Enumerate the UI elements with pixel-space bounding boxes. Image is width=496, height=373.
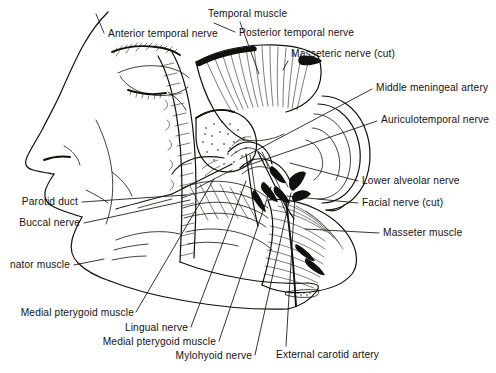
label-lingual-nerve: Lingual nerve — [125, 322, 188, 333]
label-temporal-muscle: Temporal muscle — [208, 8, 287, 19]
label-lower-alveolar-nerve: Lower alveolar nerve — [362, 175, 460, 186]
label-anterior-temporal-nerve: Anterior temporal nerve — [108, 28, 218, 39]
label-masseteric-nerve-cut: Masseteric nerve (cut) — [291, 48, 395, 59]
label-auriculotemporal-nerve: Auriculotemporal nerve — [381, 114, 489, 125]
anatomy-illustration: Anterior temporal nerve Temporal muscle … — [0, 0, 496, 373]
label-external-carotid-artery: External carotid artery — [276, 349, 380, 360]
anatomical-figure: Anterior temporal nerve Temporal muscle … — [0, 0, 496, 373]
label-parotid-duct: Parotid duct — [22, 196, 78, 207]
label-masseter-muscle: Masseter muscle — [383, 227, 462, 238]
label-facial-nerve-cut: Facial nerve (cut) — [362, 197, 443, 208]
label-buccinator-muscle: nator muscle — [10, 259, 70, 270]
label-buccal-nerve: Buccal nerve — [19, 217, 80, 228]
label-mylohyoid-nerve: Mylohyoid nerve — [176, 350, 253, 361]
label-medial-pterygoid-muscle-upper: Medial pterygoid muscle — [21, 307, 134, 318]
label-middle-meningeal-artery: Middle meningeal artery — [376, 82, 489, 93]
label-posterior-temporal-nerve: Posterior temporal nerve — [239, 27, 354, 38]
label-medial-pterygoid-muscle-lower: Medial pterygoid muscle — [103, 336, 216, 347]
